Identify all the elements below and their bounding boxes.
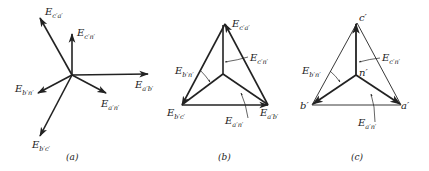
vertex-b: b′	[300, 100, 309, 111]
caption-c: (c)	[351, 152, 364, 162]
label-ebpcp: Eb′c′	[166, 107, 186, 121]
label-ecpnp: Ec′n′	[76, 27, 96, 41]
label-ebpnp: Eb′n′	[174, 65, 194, 79]
caption-a: (a)	[66, 152, 79, 162]
label-ecpnp: Ec′n′	[381, 52, 401, 66]
vertex-a: a′	[401, 100, 410, 111]
panel-b: Ec′a′ Ec′n′ Eb′n′ Eb′c′ Ea′n′ Ea′b′ (b)	[166, 18, 279, 162]
label-eapbp: Ea′b′	[259, 107, 279, 121]
label-ebpcp: Eb′c′	[31, 139, 51, 153]
panel-c: c′ b′ a′ n′ Ec′n′ Eb′n′ Ea′n′ (c)	[300, 12, 410, 162]
label-ecpap: Ec′a′	[44, 6, 63, 20]
phasor-ebpcp	[182, 24, 225, 105]
label-eapnp: Ea′n′	[224, 115, 244, 129]
phasor-eapnp	[72, 75, 106, 93]
vertex-c: c′	[359, 12, 368, 23]
caption-b: (b)	[218, 152, 231, 162]
label-ecpnp: Ec′n′	[249, 52, 269, 66]
label-eapnp: Ea′n′	[357, 117, 377, 131]
phasor-ebpnp	[313, 75, 356, 104]
label-eapbp: Ea′b′	[134, 79, 154, 93]
label-eapnp: Ea′n′	[100, 98, 120, 112]
label-ecpap: Ec′a′	[231, 18, 250, 32]
panel-a: Ec′a′ Ec′n′ Ea′b′ Ea′n′ Eb′n′ Eb′c′ (a)	[14, 6, 154, 162]
phasor-ecpap	[40, 18, 72, 75]
phasor-diagram-figure: Ec′a′ Ec′n′ Ea′b′ Ea′n′ Eb′n′ Eb′c′ (a) …	[0, 0, 429, 171]
vertex-n: n′	[359, 67, 368, 78]
phasor-eapnp	[356, 75, 400, 104]
label-ebpnp: Eb′n′	[301, 65, 321, 79]
phasor-eapbp	[72, 74, 148, 75]
label-ebpnp: Eb′n′	[14, 83, 34, 97]
